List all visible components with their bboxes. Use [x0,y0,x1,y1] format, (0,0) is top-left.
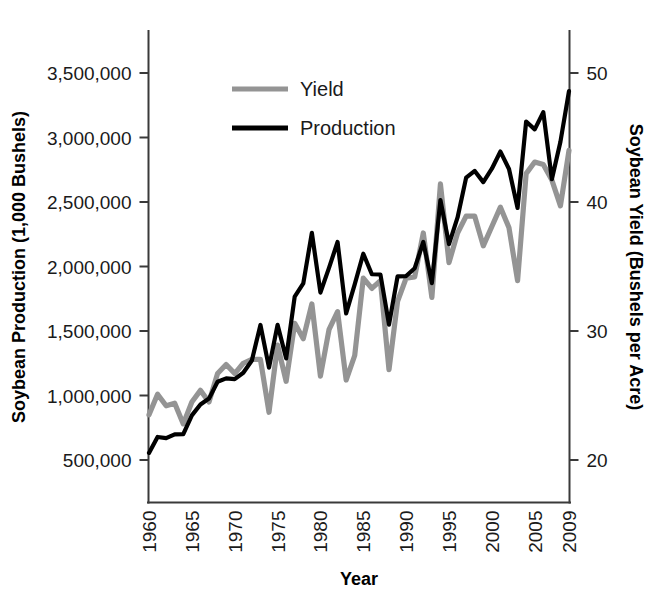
series-group [149,91,569,453]
left-axis-ticks: 500,0001,000,0001,500,0002,000,0002,500,… [47,63,149,471]
left-tick-label: 1,500,000 [47,321,132,342]
left-axis-title: Soybean Production (1,000 Bushels) [9,111,29,423]
right-tick-label: 50 [587,63,608,84]
x-tick-label: 1965 [182,511,203,553]
left-tick-label: 3,000,000 [47,128,132,149]
x-tick-label: 1970 [225,511,246,553]
right-tick-label: 40 [587,192,608,213]
x-tick-label: 1980 [310,511,331,553]
right-axis-ticks: 20304050 [570,63,608,471]
x-tick-label: 2009 [559,511,580,553]
right-axis-title: Soybean Yield (Bushels per Acre) [626,124,646,410]
left-tick-label: 2,000,000 [47,257,132,278]
soybean-production-yield-chart: 500,0001,000,0001,500,0002,000,0002,500,… [0,0,648,596]
left-tick-label: 500,000 [63,450,132,471]
x-tick-label: 1975 [268,511,289,553]
chart-legend: Yield Production [232,78,396,139]
x-tick-label: 1990 [396,511,417,553]
right-tick-label: 30 [587,321,608,342]
left-tick-label: 2,500,000 [47,192,132,213]
x-axis-title: Year [340,569,378,589]
left-tick-label: 3,500,000 [47,63,132,84]
left-tick-label: 1,000,000 [47,386,132,407]
chart-container: 500,0001,000,0001,500,0002,000,0002,500,… [0,0,648,596]
x-tick-label: 1995 [439,511,460,553]
x-tick-label: 1960 [139,511,160,553]
x-axis-ticks: 1960196519701975198019851990199520002005… [139,511,580,553]
legend-label-yield: Yield [300,78,344,100]
legend-label-production: Production [300,117,396,139]
series-line-yield [149,150,569,423]
x-tick-label: 2000 [482,511,503,553]
right-tick-label: 20 [587,450,608,471]
x-tick-label: 2005 [525,511,546,553]
x-tick-label: 1985 [353,511,374,553]
